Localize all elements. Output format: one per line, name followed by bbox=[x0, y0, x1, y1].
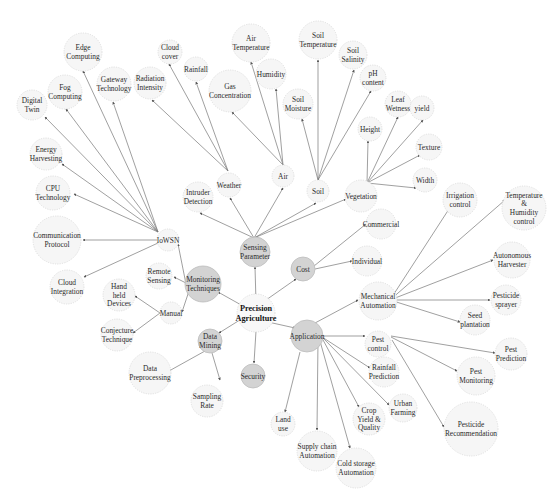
edge-arrow bbox=[133, 313, 160, 333]
node-label: Harvester bbox=[498, 260, 527, 269]
node-fog: FogComputing bbox=[48, 75, 82, 109]
node-label: Parameter bbox=[240, 252, 270, 261]
node-monitoring: MonitoringTechniques bbox=[185, 266, 221, 302]
node-label: Concentration bbox=[209, 91, 251, 100]
node-vegetation: Vegetation bbox=[345, 180, 377, 212]
edge-arrow bbox=[322, 338, 359, 407]
edge-arrow bbox=[232, 112, 283, 165]
node-label: cover bbox=[162, 52, 179, 61]
node-datamining: DataMining bbox=[198, 329, 222, 353]
edge-arrow bbox=[285, 352, 300, 412]
node-label: Preprocessing bbox=[129, 373, 171, 382]
node-label: yield bbox=[415, 104, 430, 113]
node-label: Moisture bbox=[285, 104, 312, 113]
node-label: Automation bbox=[338, 468, 374, 477]
node-supply: Supply chainAutomation bbox=[297, 431, 337, 471]
node-label: Twin bbox=[24, 105, 39, 114]
node-irrigation: Irrigationcontrol bbox=[443, 183, 477, 217]
node-iowsn: IoWSN bbox=[157, 229, 180, 251]
node-label: Techniques bbox=[186, 284, 220, 293]
node-label: Width bbox=[416, 176, 434, 185]
node-seed: Seedplantation bbox=[460, 305, 490, 335]
node-label: Weather bbox=[217, 181, 242, 190]
node-radiation: RadiationIntensity bbox=[134, 67, 166, 99]
node-label: Devices bbox=[107, 299, 131, 308]
node-weather: Weather bbox=[217, 173, 242, 197]
node-humidity: Humidity bbox=[256, 59, 286, 89]
node-sensing: SensingParameter bbox=[240, 237, 271, 267]
node-air: Air bbox=[272, 165, 294, 187]
node-label: Prediction bbox=[369, 372, 400, 381]
edge-arrow bbox=[254, 203, 316, 238]
node-cost: Cost bbox=[291, 257, 315, 281]
node-label: Technique bbox=[102, 335, 133, 344]
node-rainpred: RainfallPrediction bbox=[369, 357, 400, 387]
node-label: Mining bbox=[199, 341, 221, 350]
edge-arrow bbox=[182, 294, 188, 312]
node-label: Wetness bbox=[386, 104, 411, 113]
node-label: Temperature bbox=[232, 43, 270, 52]
node-application: Application bbox=[290, 320, 325, 352]
node-label: Rate bbox=[200, 401, 214, 410]
edge-arrow bbox=[135, 296, 160, 313]
node-label: Prediction bbox=[496, 354, 527, 363]
node-pestpred: PestPrediction bbox=[495, 338, 527, 370]
node-width: Width bbox=[413, 168, 437, 192]
edge-arrow bbox=[318, 70, 354, 180]
node-label: Vegetation bbox=[345, 192, 377, 201]
node-edge: EdgeComputing bbox=[64, 33, 102, 71]
node-ph: pHcontent bbox=[360, 65, 386, 91]
node-label: Salinity bbox=[342, 55, 365, 64]
node-gas: GasConcentration bbox=[209, 70, 251, 112]
edge-arrow bbox=[254, 199, 346, 238]
node-label: Temperature bbox=[299, 40, 337, 49]
edge-arrow bbox=[254, 331, 256, 363]
node-digitaltwin: DigitalTwin bbox=[17, 90, 47, 120]
node-pestcontrol: Pestcontrol bbox=[365, 331, 391, 357]
node-coldstorage: Cold storageAutomation bbox=[336, 448, 376, 488]
node-label: Quality bbox=[358, 423, 380, 432]
node-label: Integration bbox=[51, 287, 84, 296]
node-label: Manual bbox=[160, 309, 183, 318]
node-label: Recommendation bbox=[445, 429, 497, 438]
edge-arrow bbox=[390, 200, 505, 300]
node-rainfall: Rainfall bbox=[184, 57, 208, 81]
node-individual: Individual bbox=[352, 246, 382, 276]
node-soilsalinity: SoilSalinity bbox=[339, 41, 367, 69]
node-label: Technology bbox=[97, 84, 132, 93]
edge-arrow bbox=[45, 117, 158, 232]
edge-arrow bbox=[367, 155, 420, 183]
edge-arrow bbox=[390, 260, 493, 300]
node-cloudint: CloudIntegration bbox=[50, 270, 84, 304]
node-label: Automation bbox=[360, 301, 396, 310]
edge-arrow bbox=[317, 340, 318, 430]
node-pestmon: PestMonitoring bbox=[457, 357, 495, 395]
node-label: Precision bbox=[240, 304, 273, 313]
node-label: IoWSN bbox=[157, 236, 180, 245]
edge-arrow bbox=[302, 119, 318, 180]
node-label: content bbox=[362, 78, 385, 87]
node-label: Security bbox=[241, 372, 266, 381]
node-label: Soil bbox=[312, 187, 324, 196]
node-crop: CropYield &Quality bbox=[353, 403, 385, 435]
node-label: Sensing bbox=[147, 276, 171, 285]
node-label: Application bbox=[290, 332, 325, 341]
node-label: Rainfall bbox=[184, 65, 208, 74]
edge-arrow bbox=[322, 337, 370, 368]
nodes-layer: PrecisionAgricultureSensingParameterMoni… bbox=[17, 21, 546, 488]
edge-arrow bbox=[66, 109, 158, 232]
node-airtemp: AirTemperature bbox=[232, 24, 270, 62]
node-label: Height bbox=[360, 125, 381, 134]
node-pesticiderec: PesticideRecommendation bbox=[444, 402, 498, 456]
node-label: Farming bbox=[390, 408, 415, 417]
edge-arrow bbox=[74, 194, 158, 232]
node-leafwet: LeafWetness bbox=[385, 91, 411, 117]
node-label: Harvesting bbox=[30, 154, 63, 163]
node-label: Cost bbox=[296, 265, 311, 274]
edge-arrow bbox=[320, 341, 350, 448]
node-label: Protocol bbox=[44, 240, 69, 249]
edge-arrow bbox=[390, 300, 460, 322]
edges-layer bbox=[45, 60, 505, 448]
node-label: Detection bbox=[184, 197, 213, 206]
node-label: Intensity bbox=[137, 83, 163, 92]
